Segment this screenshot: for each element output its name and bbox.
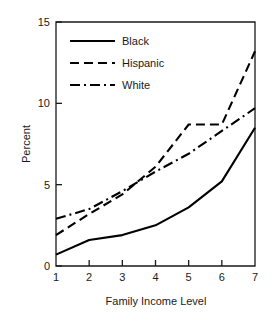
y-tick-label: 5	[44, 179, 50, 191]
x-tick-label: 4	[152, 271, 158, 283]
x-tick-label: 5	[186, 271, 192, 283]
chart-legend: BlackHispanicWhite	[70, 35, 165, 91]
y-tick-label: 0	[44, 260, 50, 272]
legend-label-black: Black	[122, 35, 149, 47]
y-tick-label: 15	[38, 16, 50, 28]
legend-label-hispanic: Hispanic	[122, 57, 165, 69]
y-axis-title: Percent	[20, 125, 32, 163]
x-tick-label: 1	[53, 271, 59, 283]
series-line-hispanic	[56, 51, 255, 235]
series-line-white	[56, 108, 255, 219]
x-tick-label: 6	[219, 271, 225, 283]
x-axis-title: Family Income Level	[106, 295, 207, 307]
data-series-group	[56, 51, 255, 254]
x-axis-ticks	[89, 260, 222, 266]
chart-canvas: 051015 1234567 BlackHispanicWhite Family…	[0, 0, 276, 314]
x-axis-tick-labels: 1234567	[53, 271, 258, 283]
legend-label-white: White	[122, 79, 150, 91]
x-tick-label: 7	[252, 271, 258, 283]
y-axis-tick-labels: 051015	[38, 16, 50, 272]
x-tick-label: 3	[119, 271, 125, 283]
series-line-black	[56, 128, 255, 255]
y-tick-label: 10	[38, 97, 50, 109]
x-tick-label: 2	[86, 271, 92, 283]
y-axis-ticks	[56, 22, 62, 266]
line-chart-figure: 051015 1234567 BlackHispanicWhite Family…	[0, 0, 276, 314]
